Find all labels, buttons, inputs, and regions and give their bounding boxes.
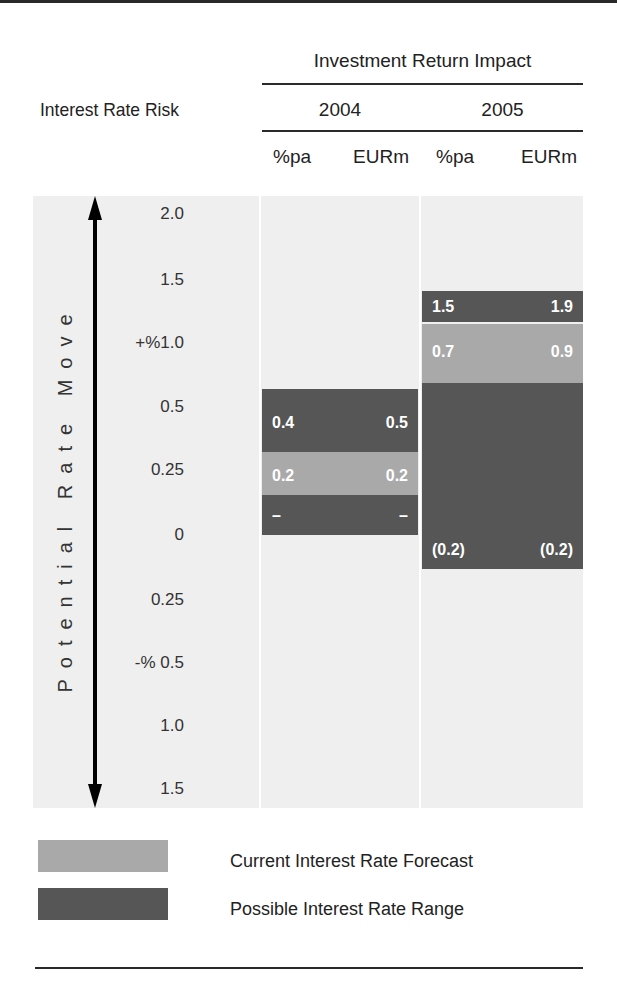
forecast-segment: 0.2 0.2 (262, 452, 418, 495)
legend-swatch-forecast (38, 840, 168, 872)
year-2005: 2005 (422, 99, 583, 121)
range-segment-bottom: (0.2) (0.2) (422, 383, 583, 569)
tick-label: 0.25 (151, 460, 184, 480)
value-eurm: 0.5 (386, 414, 408, 432)
legend-label-forecast: Current Interest Rate Forecast (230, 851, 473, 872)
unit-2005-eurm: EURm (512, 146, 586, 168)
tick-label: 1.5 (160, 779, 184, 799)
value-eurm: – (399, 507, 408, 525)
value-eurm: 1.9 (551, 298, 573, 316)
value-pa: 0.7 (432, 343, 454, 361)
tick-label: -% 0.5 (135, 653, 184, 673)
range-segment-bottom: – – (262, 495, 418, 535)
tick-label: 0.25 (151, 590, 184, 610)
value-eurm: 0.9 (551, 343, 573, 361)
unit-2004-pa: %pa (262, 146, 322, 168)
tick-label: 0.5 (160, 397, 184, 417)
value-eurm: 0.2 (386, 467, 408, 485)
top-rule (0, 0, 617, 3)
header-rule-1 (262, 83, 583, 85)
value-pa: – (272, 507, 281, 525)
bar-2004: 0.4 0.5 0.2 0.2 – – (262, 389, 418, 535)
rate-move-axis-arrow (84, 194, 106, 810)
tick-label: 2.0 (160, 204, 184, 224)
value-pa: (0.2) (432, 541, 465, 559)
bottom-rule (35, 967, 583, 969)
range-segment-top: 1.5 1.9 (422, 291, 583, 322)
value-eurm: (0.2) (540, 541, 573, 559)
tick-label: +%1.0 (135, 333, 184, 353)
value-pa: 0.4 (272, 414, 294, 432)
tick-label: 0 (175, 525, 184, 545)
legend-swatch-range (38, 888, 168, 920)
forecast-segment: 0.7 0.9 (422, 324, 583, 383)
unit-2004-eurm: EURm (346, 146, 416, 168)
row-title: Interest Rate Risk (40, 99, 179, 121)
value-pa: 0.2 (272, 467, 294, 485)
header-rule-2 (262, 130, 583, 132)
year-2004: 2004 (262, 99, 418, 121)
range-segment-top: 0.4 0.5 (262, 389, 418, 452)
axis-label: Potential Rate Move (54, 303, 77, 692)
legend-label-range: Possible Interest Rate Range (230, 899, 464, 920)
group-title: Investment Return Impact (262, 50, 583, 72)
tick-label: 1.5 (160, 270, 184, 290)
tick-label: 1.0 (160, 716, 184, 736)
unit-2005-pa: %pa (425, 146, 485, 168)
value-pa: 1.5 (432, 298, 454, 316)
bar-2005: 1.5 1.9 0.7 0.9 (0.2) (0.2) (422, 291, 583, 569)
